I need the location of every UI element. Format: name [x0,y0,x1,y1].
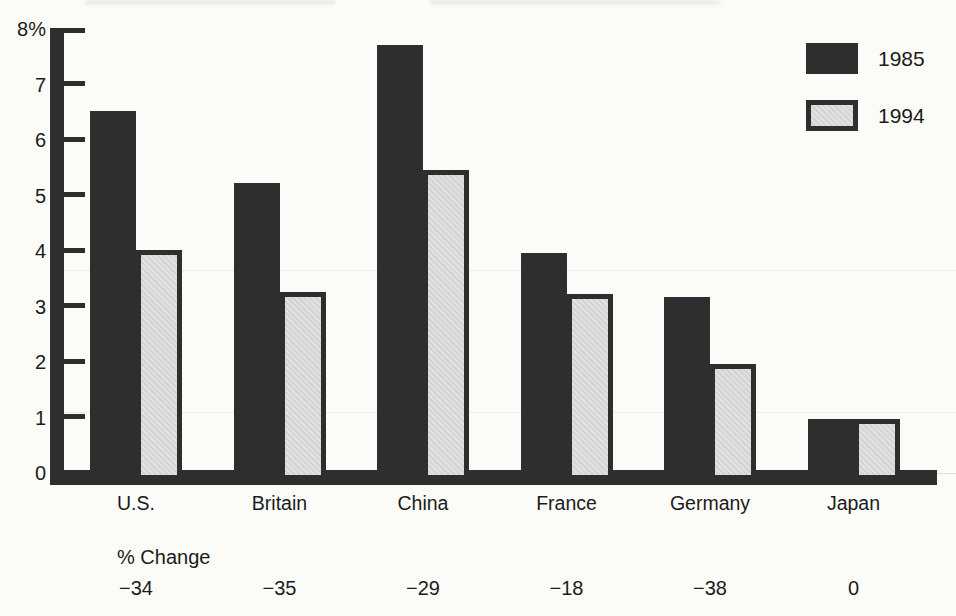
bar-1985-germany [664,297,710,476]
legend-swatch-1985 [806,43,858,74]
scan-artifact [85,0,335,5]
category-label-britain: Britain [215,492,345,514]
bar-1994-france [567,294,613,480]
legend-item-1994: 1994 [806,100,925,131]
category-label-germany: Germany [645,492,775,514]
y-tick-label-5: 5 [0,184,46,208]
scan-artifact [430,0,720,5]
y-axis [50,28,64,485]
bar-1985-britain [234,183,280,476]
category-label-japan: Japan [789,492,919,514]
bar-1985-france [521,253,567,476]
y-tick-label-0: 0 [0,461,46,485]
y-tick-4 [64,248,85,253]
y-tick-6 [64,137,85,142]
bar-1985-china [377,45,423,476]
y-tick-label-1: 1 [0,406,46,430]
bar-1985-japan [808,419,854,476]
pct-change-france: −18 [502,577,632,600]
legend-swatch-1994 [806,100,858,131]
pct-change-label: % Change [117,546,210,569]
category-label-us: U.S. [71,492,201,514]
y-tick-3 [64,303,85,308]
scan-line [64,270,956,271]
y-tick-label-2: 2 [0,350,46,374]
pct-change-britain: −35 [215,577,345,600]
y-tick-7 [64,81,85,86]
bar-1994-britain [280,292,326,480]
bar-chart: 19851994 % Change 012345678%U.S.−34Brita… [0,0,956,616]
pct-change-germany: −38 [645,577,775,600]
legend-label-1985: 1985 [878,47,925,71]
bar-1994-china [423,170,469,480]
y-tick-2 [64,359,85,364]
legend: 19851994 [806,43,925,157]
y-tick-label-8: 8% [0,17,46,41]
category-label-france: France [502,492,632,514]
y-tick-label-6: 6 [0,128,46,152]
y-tick-label-4: 4 [0,239,46,263]
scan-line [937,473,956,474]
bar-1985-us [90,111,136,476]
y-tick-label-7: 7 [0,73,46,97]
bar-1994-germany [710,364,756,480]
y-tick-8 [64,28,85,33]
scan-line [64,412,956,413]
y-tick-label-3: 3 [0,295,46,319]
pct-change-china: −29 [358,577,488,600]
bar-1994-us [136,250,182,480]
x-axis-baseline [50,470,937,485]
pct-change-us: −34 [71,577,201,600]
y-tick-5 [64,192,85,197]
legend-item-1985: 1985 [806,43,925,74]
legend-label-1994: 1994 [878,104,925,128]
category-label-china: China [358,492,488,514]
y-tick-1 [64,414,85,419]
pct-change-japan: 0 [789,577,919,600]
bar-1994-japan [854,419,900,480]
